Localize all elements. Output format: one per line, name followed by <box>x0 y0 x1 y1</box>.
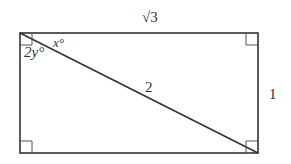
label-right-side: 1 <box>269 86 277 102</box>
label-top-side: √3 <box>142 9 158 25</box>
diagonal-line <box>20 33 258 153</box>
label-angle-x: x° <box>52 35 64 50</box>
diagram-canvas: √3 1 2 x° 2y° <box>0 0 291 164</box>
label-diagonal: 2 <box>145 79 153 95</box>
right-angle-mark-bottom-left <box>20 141 32 153</box>
label-angle-2y: 2y° <box>24 44 44 60</box>
right-angle-mark-top-right <box>246 33 258 45</box>
